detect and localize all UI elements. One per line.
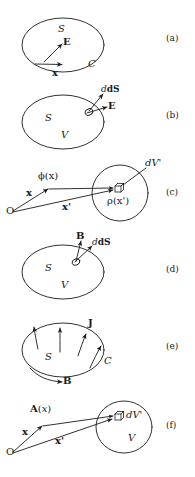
panel-id-f: (f): [166, 421, 176, 430]
panel-d-volume-label: V: [61, 280, 68, 290]
panel-c-field-point-vector-label: x: [26, 188, 32, 198]
panel-f-field-point-vector-label: x: [22, 427, 28, 437]
panel-c-potential-label: ϕ(x): [38, 171, 58, 181]
panel-e-surface-label: S: [45, 352, 52, 362]
panel-f-origin-label: O: [6, 447, 14, 457]
panel-d-field-vector-label: B: [76, 231, 84, 241]
panel-c-volume-element-label: dV': [145, 158, 161, 168]
panel-b-field-vector-label: E: [108, 101, 116, 111]
panel-id-a: (a): [166, 34, 178, 43]
panel-c-linework: [13, 165, 148, 221]
panel-a-surface-label: S: [58, 24, 65, 34]
panel-c-charge-density-label: ρ(x'): [107, 196, 129, 206]
panel-b-area-element-S: dS: [107, 84, 120, 94]
panel-e-linework: [22, 323, 104, 382]
panel-d-surface-label: S: [45, 263, 52, 273]
panel-f-source-point-vector-label: x': [55, 436, 64, 446]
panel-c-source-point-vector-label: x': [62, 202, 71, 212]
panel-b-surface-label: S: [45, 113, 52, 123]
figure-canvas: S C E x (a) S V ddS E (b) O x x' ϕ(x) dV…: [0, 0, 195, 477]
panel-f-vector-potential-arg: (x): [38, 403, 51, 414]
panel-f-volume-label: V: [128, 433, 135, 443]
panel-d-linework: [22, 241, 104, 299]
panel-f-vector-potential-label: A(x): [30, 404, 51, 414]
panel-f-vector-potential-A: A: [30, 403, 38, 414]
panel-id-e: (e): [166, 342, 178, 351]
panel-id-c: (c): [166, 188, 178, 197]
panel-a-field-vector-label: E: [63, 37, 71, 47]
panel-f-volume-element-label: dV': [126, 410, 142, 420]
panel-b-volume-label: V: [61, 130, 68, 140]
panel-e-field-vector-label: B: [63, 376, 71, 386]
panel-a-curve-label: C: [88, 59, 96, 69]
panel-d-area-element-label: ddS: [92, 238, 111, 247]
panel-d-area-element-S: dS: [98, 237, 111, 247]
panel-b-area-element-label: ddS: [101, 85, 120, 94]
panel-e-curve-label: C: [104, 356, 112, 366]
panel-a-position-vector-label: x: [52, 68, 58, 78]
panel-e-current-density-label: J: [88, 318, 93, 328]
panel-id-d: (d): [166, 265, 179, 274]
panel-c-origin-label: O: [6, 206, 14, 216]
panel-b-linework: [22, 94, 107, 149]
panel-id-b: (b): [166, 111, 179, 120]
